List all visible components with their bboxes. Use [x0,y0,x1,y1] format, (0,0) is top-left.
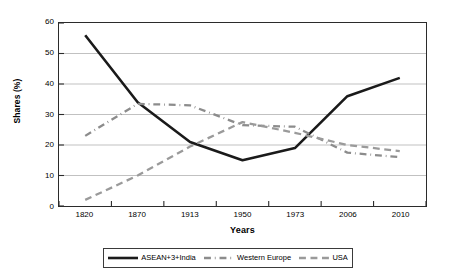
x-tick-label: 1913 [167,210,213,219]
legend-item[interactable]: Western Europe [204,254,291,262]
y-tick-label: 60 [30,18,54,26]
y-tick-label: 0 [30,203,54,211]
legend-item-label: ASEAN+3+India [141,254,196,262]
y-tick-label: 50 [30,49,54,57]
x-tick-label: 1973 [272,210,318,219]
x-axis-tick-labels: 1820187019131950197320062010 [58,210,427,224]
x-tick-label: 2006 [325,210,371,219]
plot-area [58,22,427,207]
chart-figure: Shares (%) 6050403020100 182018701913195… [0,0,449,278]
y-tick-label: 20 [30,141,54,149]
y-tick-label: 40 [30,80,54,88]
x-tick-label: 1820 [61,210,107,219]
y-tick-label: 30 [30,111,54,119]
legend-item[interactable]: USA [299,254,347,262]
legend-item-label: Western Europe [237,254,291,262]
series-line [85,104,400,157]
x-tick-label: 1870 [114,210,160,219]
legend-line-swatch [108,254,138,262]
y-axis-title: Shares (%) [12,56,22,146]
chart-legend: ASEAN+3+IndiaWestern EuropeUSA [103,248,353,268]
legend-item-label: USA [332,254,347,262]
x-tick-label: 1950 [220,210,266,219]
x-axis-title: Years [58,225,427,235]
legend-item[interactable]: ASEAN+3+India [108,254,196,262]
y-tick-label: 10 [30,172,54,180]
x-tick-label: 2010 [378,210,424,219]
series-lines [59,23,426,206]
legend-line-swatch [299,254,329,262]
legend-line-swatch [204,254,234,262]
y-axis-tick-labels: 6050403020100 [26,0,54,278]
series-line [85,35,400,160]
